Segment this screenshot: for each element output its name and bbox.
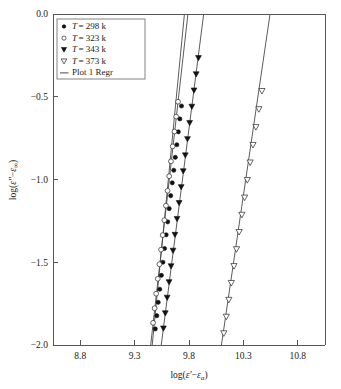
chart-legend: T= 298 kT= 323 kT= 343 kT= 373 kPlot 1 R…	[57, 19, 145, 79]
chart-figure: 8.89.39.810.310.8 0.0−0.5−1.0−1.5−2.0 lo…	[0, 0, 341, 389]
data-point	[172, 129, 177, 134]
data-point	[223, 314, 229, 320]
data-point	[152, 306, 157, 311]
data-point	[169, 159, 174, 164]
data-point	[154, 291, 159, 296]
y-tick-label: −1.5	[31, 258, 48, 268]
data-point	[233, 247, 239, 253]
data-point	[62, 36, 66, 40]
data-point	[170, 181, 174, 185]
data-point	[176, 201, 182, 206]
data-point	[164, 203, 169, 208]
data-point	[157, 262, 162, 267]
y-tick-label: −0.5	[31, 92, 48, 102]
data-point	[173, 155, 177, 159]
data-point	[239, 212, 245, 218]
data-point	[164, 295, 170, 300]
data-point	[156, 300, 160, 304]
data-point	[193, 72, 199, 77]
x-tick-label: 8.8	[74, 351, 86, 361]
data-point	[187, 120, 193, 125]
y-tick-label: 0.0	[36, 9, 48, 19]
data-point	[169, 194, 173, 198]
y-tick-label: −2.0	[31, 340, 48, 350]
data-point	[162, 311, 168, 316]
data-point	[191, 88, 197, 93]
x-tick-label: 10.3	[235, 351, 252, 361]
data-point	[226, 297, 232, 303]
data-point	[174, 114, 179, 119]
scatter-plot: 8.89.39.810.310.8 0.0−0.5−1.0−1.5−2.0 lo…	[0, 0, 341, 389]
data-point	[166, 280, 172, 285]
data-point	[151, 320, 156, 325]
data-point	[259, 88, 265, 94]
data-point	[179, 104, 183, 108]
data-point	[155, 314, 159, 318]
data-point	[165, 188, 170, 193]
data-point	[161, 326, 167, 331]
data-point	[170, 144, 175, 149]
x-axis-title: log(ε′−εα)	[170, 370, 207, 382]
data-point	[180, 169, 186, 174]
x-tick-label: 9.8	[183, 351, 195, 361]
data-point	[256, 107, 262, 113]
data-point	[155, 276, 160, 281]
data-point	[236, 229, 242, 235]
data-point	[158, 287, 162, 291]
data-point	[172, 232, 178, 237]
data-point	[178, 185, 184, 190]
data-point	[228, 280, 234, 286]
data-point	[160, 233, 165, 238]
data-point	[176, 99, 181, 104]
data-point	[153, 327, 157, 331]
data-point	[170, 248, 176, 253]
data-point	[167, 174, 172, 179]
y-axis-title: log(ε″−ε∞)	[8, 160, 20, 200]
data-point	[159, 273, 163, 277]
x-tick-label: 10.8	[289, 351, 306, 361]
data-point	[159, 247, 164, 252]
data-point	[168, 264, 174, 269]
x-axis-ticks: 8.89.39.810.310.8	[74, 340, 306, 361]
data-point	[172, 168, 176, 172]
data-point	[182, 153, 188, 158]
series-373	[221, 88, 265, 336]
legend-label: Plot 1 Regr	[72, 67, 113, 77]
data-point	[174, 216, 180, 221]
data-point	[185, 137, 191, 142]
data-point	[62, 25, 66, 29]
data-point	[189, 104, 195, 109]
data-point	[221, 331, 227, 337]
data-point	[196, 56, 202, 61]
y-tick-label: −1.0	[31, 175, 48, 185]
x-tick-label: 9.3	[129, 351, 141, 361]
y-axis-ticks: 0.0−0.5−1.0−1.5−2.0	[31, 9, 58, 350]
data-point	[162, 218, 167, 223]
data-point	[231, 264, 237, 270]
